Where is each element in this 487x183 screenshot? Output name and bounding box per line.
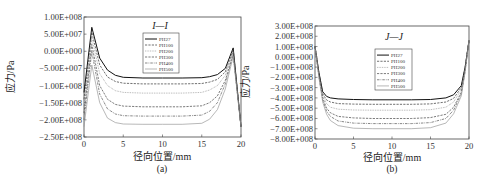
y-tick-label: 2.00E+008 (275, 31, 313, 41)
legend-label: PH500 (159, 67, 173, 72)
y-axis-ticks-a: 1.00E+0085.00E+0070.00E+000−5.00E+007−1.… (39, 12, 86, 142)
caption-a: (a) (157, 164, 168, 175)
x-tick-label: 0 (82, 139, 86, 149)
y-axis-title-b: 应力/Pa (239, 65, 251, 98)
caption-b: (b) (386, 164, 397, 175)
y-tick-label: 0.00E+000 (44, 46, 82, 56)
y-tick-label: −8.00E+008 (270, 134, 313, 144)
legend-label: PH200 (159, 49, 173, 54)
legend-label: PH27 (391, 53, 403, 58)
y-tick-label: 0.00E+000 (275, 52, 313, 62)
x-tick-label: 5 (121, 139, 125, 149)
x-tick-label: 15 (426, 141, 435, 151)
legend-label: PH100 (159, 43, 173, 48)
y-tick-label: −7.00E+008 (270, 124, 313, 134)
x-tick-label: 20 (465, 141, 474, 151)
y-tick-label: −2.00E+008 (270, 72, 313, 82)
legend-label: PH300 (159, 55, 173, 60)
y-tick-label: −2.50E+008 (39, 132, 82, 142)
legend-label: PH200 (391, 65, 405, 70)
x-tick-label: 5 (351, 141, 355, 151)
chart-panel-b: 3.00E+0082.00E+0081.00E+0080.00E+000−1.0… (239, 21, 473, 175)
legend-b: PH27PH100PH200PH300PH400PH500 (375, 49, 412, 90)
y-tick-label: 1.00E+008 (275, 42, 313, 52)
y-tick-label: 5.00E+007 (44, 29, 83, 39)
y-tick-label: −1.00E+008 (270, 62, 313, 72)
y-tick-label: −6.00E+008 (270, 113, 313, 123)
legend-label: PH300 (391, 71, 405, 76)
panel-title-b: J—J (385, 31, 403, 42)
legend-a: PH27PH100PH200PH300PH400PH500 (143, 33, 179, 73)
legend-label: PH27 (159, 37, 171, 42)
y-tick-label: −1.50E+008 (39, 98, 82, 108)
x-axis-title-a: 径向位置/mm (133, 150, 192, 162)
x-tick-label: 10 (158, 139, 167, 149)
legend-label: PH400 (159, 61, 173, 66)
y-tick-label: −2.00E+008 (39, 115, 82, 125)
legend-label: PH500 (391, 84, 405, 89)
chart-panel-a: 1.00E+0085.00E+0070.00E+000−5.00E+007−1.… (4, 12, 245, 175)
y-axis-title-a: 应力/Pa (4, 60, 16, 93)
legend-label: PH100 (391, 59, 405, 64)
y-axis-ticks-b: 3.00E+0082.00E+0081.00E+0080.00E+000−1.0… (270, 21, 317, 144)
x-tick-label: 15 (197, 139, 206, 149)
y-tick-label: −1.00E+008 (39, 81, 82, 91)
panel-title-a: I—I (151, 20, 168, 31)
x-tick-label: 0 (313, 141, 317, 151)
y-tick-label: 3.00E+008 (275, 21, 313, 31)
y-tick-label: −5.00E+007 (39, 63, 83, 73)
x-tick-label: 10 (388, 141, 397, 151)
y-tick-label: −3.00E+008 (270, 83, 313, 93)
y-tick-label: −4.00E+008 (270, 93, 313, 103)
legend-label: PH400 (391, 78, 405, 83)
y-tick-label: 1.00E+008 (44, 12, 82, 22)
y-tick-label: −5.00E+008 (270, 103, 313, 113)
x-tick-label: 20 (237, 139, 246, 149)
x-axis-title-b: 径向位置/mm (363, 151, 422, 163)
figure: 1.00E+0085.00E+0070.00E+000−5.00E+007−1.… (0, 0, 487, 183)
